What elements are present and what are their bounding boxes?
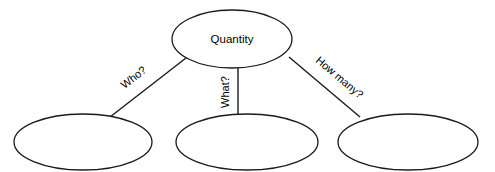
node-child-what[interactable] <box>176 114 318 170</box>
node-child-how-many[interactable] <box>338 114 478 170</box>
diagram-canvas: Quantity Who? What? How many? <box>0 0 495 172</box>
node-quantity-label: Quantity <box>211 33 254 45</box>
edge-line-who <box>110 58 186 117</box>
edge-label-how-many: How many? <box>314 54 366 101</box>
concept-map-diagram: Quantity Who? What? How many? <box>0 0 495 172</box>
edge-label-who: Who? <box>118 64 148 91</box>
edge-label-what: What? <box>219 76 231 108</box>
node-child-who[interactable] <box>14 114 152 170</box>
